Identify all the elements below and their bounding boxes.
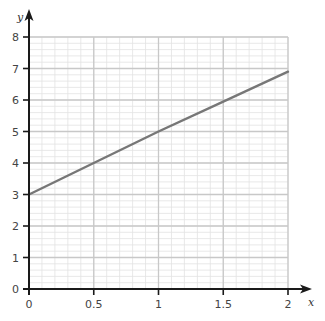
y-tick-label: 1 bbox=[12, 252, 19, 265]
x-tick-label: 2 bbox=[285, 298, 292, 311]
x-axis-label: x bbox=[308, 296, 315, 309]
x-tick-label: 1.5 bbox=[215, 298, 233, 311]
y-tick-label: 8 bbox=[12, 31, 19, 44]
axes bbox=[23, 9, 312, 295]
x-tick-label: 0.5 bbox=[85, 298, 103, 311]
y-tick-label: 7 bbox=[12, 63, 19, 76]
y-tick-label: 2 bbox=[12, 220, 19, 233]
x-tick-label: 0 bbox=[26, 298, 33, 311]
x-axis-ticks: 00.511.52 bbox=[26, 289, 292, 311]
x-tick-label: 1 bbox=[155, 298, 162, 311]
y-axis-ticks: 012345678 bbox=[12, 31, 29, 296]
y-tick-label: 3 bbox=[12, 189, 19, 202]
y-tick-label: 6 bbox=[12, 94, 19, 107]
y-tick-label: 5 bbox=[12, 126, 19, 139]
line-chart: 012345678 00.511.52 y x bbox=[0, 0, 325, 321]
y-tick-label: 0 bbox=[12, 283, 19, 296]
y-axis-label: y bbox=[16, 11, 24, 24]
y-tick-label: 4 bbox=[12, 157, 19, 170]
